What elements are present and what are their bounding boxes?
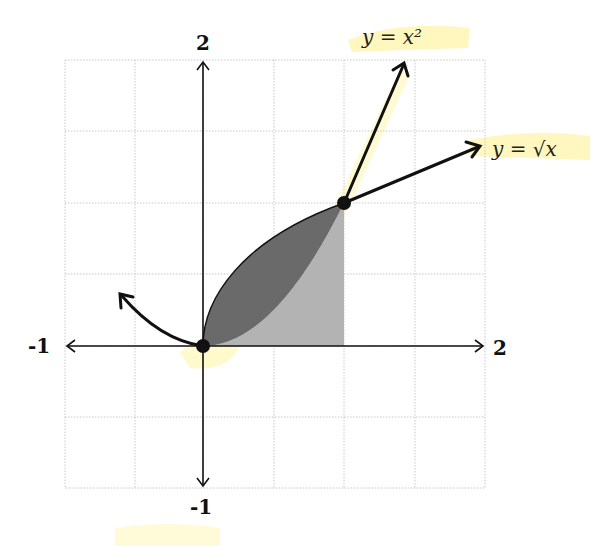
highlighter-marks — [115, 26, 590, 546]
x-min-label: -1 — [28, 334, 50, 358]
intersection-point-one-one — [337, 196, 351, 210]
graph-figure: 2 -1 -1 2 y = x² y = √x — [0, 0, 602, 546]
parabola-label: y = x² — [361, 25, 422, 49]
y-min-label: -1 — [190, 495, 212, 519]
y-max-label: 2 — [196, 31, 210, 55]
x-max-label: 2 — [493, 336, 507, 360]
parabola-left-branch — [122, 296, 203, 346]
intersection-point-origin — [196, 339, 210, 353]
sqrt-label: y = √x — [491, 137, 557, 161]
